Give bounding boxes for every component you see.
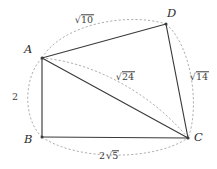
geometry-figure: A B C D √10 √14 2 √5 2 √24 [0, 0, 217, 169]
coefficient-bc: 2 [99, 151, 105, 161]
radical-ac: √24 [115, 71, 135, 82]
vertex-dot-b [41, 136, 44, 139]
edge-diagonal-ac [42, 58, 188, 138]
vertex-dot-d [165, 23, 168, 26]
radical-body-ad: 10 [81, 14, 94, 25]
radical-ad: √10 [74, 14, 94, 25]
length-label-bc: 2 √5 [99, 150, 119, 161]
length-label-ac: √24 [115, 71, 135, 82]
vertex-dot-c [186, 136, 189, 139]
length-label-dc: √14 [189, 71, 209, 82]
edge-dc [166, 24, 188, 138]
radical-dc: √14 [189, 71, 209, 82]
length-label-ab: 2 [12, 92, 18, 102]
vertex-label-c: C [194, 132, 203, 144]
vertex-label-a: A [24, 44, 33, 56]
radical-bc: √5 [105, 150, 119, 161]
edge-cb [42, 137, 188, 138]
arc-side-ad [42, 19, 166, 58]
edge-ad [42, 24, 166, 58]
radical-body-dc: 14 [196, 71, 209, 82]
vertex-dot-a [41, 57, 44, 60]
arc-side-ab [28, 58, 42, 137]
radical-body-bc: 5 [112, 150, 119, 161]
vertex-label-d: D [167, 8, 176, 20]
vertex-label-b: B [24, 134, 33, 146]
radical-body-ac: 24 [122, 71, 135, 82]
length-label-ad: √10 [74, 14, 94, 25]
